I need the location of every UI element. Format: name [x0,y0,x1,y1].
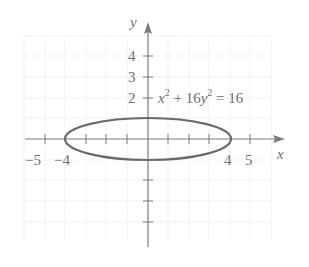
equation-label: x2 + 16y2 = 16 [157,87,244,106]
x-tick-label-neg5: −5 [25,152,41,168]
y-tick-label-4: 4 [128,48,136,64]
y-axis-label: y [128,14,137,30]
y-axis [143,22,153,247]
equation-y: y [199,90,208,106]
ellipse-graph: y x 4 3 2 −5 −4 4 5 x2 + 16y2 = 16 [0,0,309,267]
x-axis-label: x [276,146,284,162]
x-tick-label-neg4: −4 [54,152,70,168]
y-tick-label-3: 3 [128,69,136,85]
x-tick-label-4: 4 [224,152,232,168]
y-tick-label-2: 2 [128,90,136,106]
x-tick-label-5: 5 [245,152,253,168]
equation-plus-16: + 16 [170,90,201,106]
equation-rhs: = 16 [212,90,243,106]
